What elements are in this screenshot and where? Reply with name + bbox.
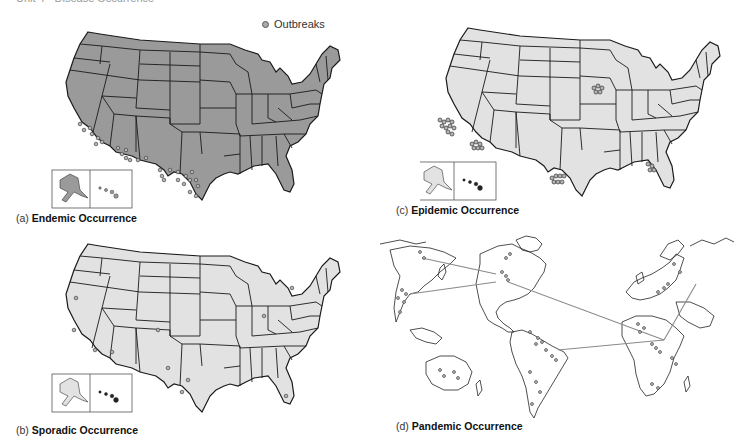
map-panel-sporadic <box>40 236 360 426</box>
arctic-coast-right <box>690 238 734 246</box>
caption-letter: (a) <box>16 212 29 224</box>
page-header-text: Unit 4 · Disease Occurrence <box>16 0 154 4</box>
transmission-lines <box>410 258 696 350</box>
map-panel-epidemic <box>420 20 734 210</box>
arctic-coast-left <box>380 240 426 244</box>
inset-alaska-hawaii <box>52 374 132 412</box>
caption-title: Endemic Occurrence <box>32 212 137 224</box>
us-map-epidemic <box>420 20 734 210</box>
map-panel-endemic <box>40 24 360 214</box>
caption-epidemic: (c) Epidemic Occurrence <box>396 204 519 216</box>
caption-title: Epidemic Occurrence <box>411 204 519 216</box>
japan-outline <box>438 264 446 280</box>
cluster-south-texas <box>550 174 566 184</box>
scandinavia-outline <box>660 240 684 260</box>
world-map-pandemic <box>380 232 734 422</box>
map-panel-pandemic <box>380 232 734 422</box>
caption-title: Sporadic Occurrence <box>32 424 138 436</box>
south-america-outline <box>510 330 568 418</box>
australia-outline <box>426 356 472 390</box>
caption-letter: (d) <box>396 420 409 432</box>
caption-title: Pandemic Occurrence <box>412 420 523 432</box>
north-america-outline <box>476 244 546 332</box>
page-header-fragment: Unit 4 · Disease Occurrence <box>0 0 300 4</box>
greenland-outline <box>516 236 542 252</box>
inset-alaska-hawaii <box>52 170 132 208</box>
us-map-sporadic <box>40 236 360 426</box>
us-map-endemic <box>40 24 360 214</box>
caption-endemic: (a) Endemic Occurrence <box>16 212 137 224</box>
southeast-asia-outline <box>410 328 442 344</box>
new-zealand-outline <box>476 380 482 396</box>
europe-outline <box>626 254 684 300</box>
middle-east-outline <box>676 302 714 328</box>
cluster-phoenix <box>470 140 484 150</box>
caption-sporadic: (b) Sporadic Occurrence <box>16 424 138 436</box>
caption-pandemic: (d) Pandemic Occurrence <box>396 420 523 432</box>
inset-alaska-hawaii <box>420 162 496 200</box>
caption-letter: (c) <box>396 204 408 216</box>
caption-letter: (b) <box>16 424 29 436</box>
madagascar-outline <box>684 376 690 392</box>
cluster-los-angeles <box>438 118 456 136</box>
